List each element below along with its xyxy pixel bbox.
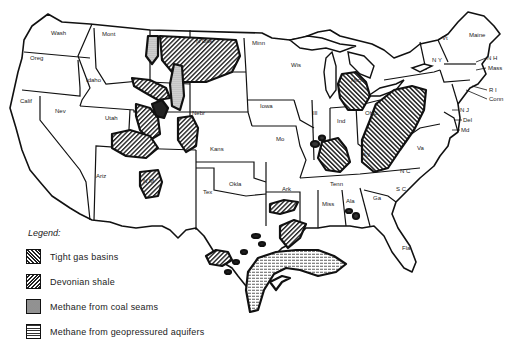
coal-seams-swatch-icon	[26, 299, 41, 314]
label-kans: Kans	[210, 146, 224, 152]
label-mo: Mo	[276, 136, 285, 142]
label-ndak: N Dak	[196, 38, 214, 44]
label-idaho: Idaho	[86, 77, 102, 83]
label-ill: Ill	[313, 110, 317, 116]
label-wis: Wis	[291, 62, 301, 68]
label-mont: Mont	[102, 31, 116, 37]
label-nh: N H	[487, 55, 497, 61]
label-vt: Vt	[442, 35, 448, 41]
map-legend: Legend: Tight gas basins Devonian shale …	[26, 228, 256, 344]
label-mich: Mich	[351, 77, 364, 83]
legend-title: Legend:	[28, 228, 256, 238]
label-minn: Minn	[252, 40, 265, 46]
label-miss: Miss	[322, 201, 334, 207]
legend-item-geopressured: Methane from geopressured aquifers	[26, 319, 256, 344]
devonian-swatch-icon	[26, 274, 41, 289]
label-wash: Wash	[51, 30, 66, 36]
label-nebr: Nebr	[192, 110, 205, 116]
label-iowa: Iowa	[260, 103, 273, 109]
label-utah: Utah	[105, 115, 118, 121]
legend-item-tight-gas: Tight gas basins	[26, 244, 256, 269]
label-md: Md	[461, 127, 469, 133]
label-oreg: Oreg	[30, 55, 43, 61]
geopressured-swatch-icon	[26, 324, 41, 339]
label-va: Va	[417, 145, 425, 151]
label-ny: N Y	[432, 57, 442, 63]
legend-item-coal-seams: Methane from coal seams	[26, 294, 256, 319]
label-conn: Conn	[489, 96, 503, 102]
legend-label: Methane from coal seams	[50, 302, 158, 312]
label-ga: Ga	[373, 195, 382, 201]
label-tenn: Tenn	[330, 181, 343, 187]
label-ky: Ky	[363, 151, 370, 157]
label-ala: Ala	[346, 198, 355, 204]
label-okla: Okla	[229, 181, 242, 187]
label-ariz: Ariz	[96, 173, 106, 179]
label-nc: N C	[400, 168, 411, 174]
label-sc: S C	[396, 186, 407, 192]
label-ark: Ark	[282, 186, 292, 192]
label-calif: Calif	[20, 98, 32, 104]
label-maine: Maine	[469, 32, 486, 38]
label-nmex: N M	[143, 178, 154, 184]
label-tex: Tex	[203, 189, 212, 195]
label-mass: Mass	[488, 65, 502, 71]
legend-label: Methane from geopressured aquifers	[50, 327, 204, 337]
label-ohio: Ohio	[365, 110, 378, 116]
label-nj: N J	[460, 107, 469, 113]
label-fla: Fla	[402, 245, 411, 251]
label-del: Del	[463, 117, 472, 123]
label-ind: Ind	[337, 118, 345, 124]
legend-item-devonian: Devonian shale	[26, 269, 256, 294]
legend-label: Tight gas basins	[50, 252, 118, 262]
legend-label: Devonian shale	[50, 277, 115, 287]
tight-gas-swatch-icon	[26, 249, 41, 264]
label-ri: R I	[489, 87, 497, 93]
label-nev: Nev	[55, 108, 66, 114]
